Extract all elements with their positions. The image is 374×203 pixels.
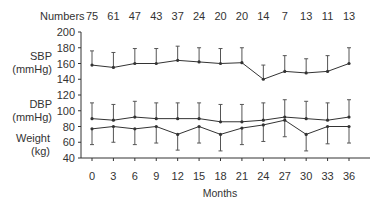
- data-point: [326, 125, 329, 128]
- data-point: [219, 133, 222, 136]
- numbers-value: 14: [257, 10, 269, 22]
- x-tick-label: 24: [257, 170, 269, 182]
- data-point: [305, 117, 308, 120]
- numbers-value: 24: [193, 10, 205, 22]
- data-point: [197, 125, 200, 128]
- y-axis: 406080100120140160180200: [57, 26, 81, 164]
- y-tick-label: 120: [57, 89, 75, 101]
- data-point: [176, 117, 179, 120]
- data-point: [240, 126, 243, 129]
- series-label: (kg): [31, 145, 50, 157]
- data-point: [155, 117, 158, 120]
- x-tick-label: 30: [300, 170, 312, 182]
- data-point: [90, 63, 93, 66]
- data-point: [347, 62, 350, 65]
- x-tick-label: 33: [321, 170, 333, 182]
- numbers-value: 13: [300, 10, 312, 22]
- numbers-value: 43: [150, 10, 162, 22]
- numbers-label: Numbers: [40, 10, 85, 22]
- numbers-value: 47: [129, 10, 141, 22]
- data-point: [219, 120, 222, 123]
- data-point: [112, 66, 115, 69]
- numbers-value: 75: [86, 10, 98, 22]
- x-tick-label: 27: [279, 170, 291, 182]
- x-tick-label: 6: [132, 170, 138, 182]
- y-tick-label: 180: [57, 42, 75, 54]
- numbers-value: 37: [172, 10, 184, 22]
- series-line: [90, 46, 351, 81]
- data-point: [176, 133, 179, 136]
- series-label: DBP: [29, 98, 52, 110]
- x-tick-label: 15: [193, 170, 205, 182]
- x-axis-label: Months: [203, 187, 237, 199]
- data-point: [155, 125, 158, 128]
- data-point: [283, 115, 286, 118]
- data-point: [262, 123, 265, 126]
- numbers-value: 20: [236, 10, 248, 22]
- data-point: [283, 70, 286, 73]
- data-point: [347, 115, 350, 118]
- plot-area: [90, 46, 351, 151]
- series-labels: SBP(mmHg)DBP(mmHg)Weight(kg): [12, 50, 52, 157]
- data-point: [305, 133, 308, 136]
- data-point: [262, 119, 265, 122]
- chart: Numbers 7561474337242020147131113 406080…: [0, 0, 374, 203]
- series-line: [90, 119, 351, 151]
- x-tick-label: 3: [110, 170, 116, 182]
- data-point: [133, 115, 136, 118]
- series-label: (mmHg): [12, 111, 52, 123]
- data-point: [90, 117, 93, 120]
- data-point: [305, 71, 308, 74]
- x-tick-label: 9: [153, 170, 159, 182]
- y-tick-label: 80: [63, 121, 75, 133]
- x-axis: 0369121518212427303336: [81, 158, 370, 182]
- numbers-values: 7561474337242020147131113: [86, 10, 355, 22]
- x-tick-label: 0: [89, 170, 95, 182]
- data-point: [112, 119, 115, 122]
- data-point: [197, 60, 200, 63]
- data-point: [133, 62, 136, 65]
- x-tick-label: 12: [172, 170, 184, 182]
- series-label: Weight: [16, 132, 50, 144]
- series-label: (mmHg): [12, 63, 52, 75]
- numbers-value: 20: [214, 10, 226, 22]
- y-tick-label: 200: [57, 26, 75, 38]
- x-tick-label: 36: [343, 170, 355, 182]
- data-point: [133, 127, 136, 130]
- numbers-row: Numbers 7561474337242020147131113: [40, 10, 355, 22]
- data-point: [326, 70, 329, 73]
- numbers-value: 13: [343, 10, 355, 22]
- numbers-value: 7: [282, 10, 288, 22]
- y-tick-label: 40: [63, 152, 75, 164]
- data-point: [240, 61, 243, 64]
- data-point: [283, 119, 286, 122]
- data-point: [262, 78, 265, 81]
- y-tick-label: 160: [57, 58, 75, 70]
- data-point: [176, 59, 179, 62]
- y-tick-label: 60: [63, 136, 75, 148]
- y-tick-label: 140: [57, 73, 75, 85]
- data-point: [112, 125, 115, 128]
- x-tick-label: 18: [214, 170, 226, 182]
- numbers-value: 61: [107, 10, 119, 22]
- data-point: [347, 125, 350, 128]
- numbers-value: 11: [322, 10, 333, 22]
- x-tick-label: 21: [236, 170, 248, 182]
- series-line: [90, 100, 351, 124]
- series-label: SBP: [30, 50, 52, 62]
- data-point: [219, 62, 222, 65]
- data-point: [240, 120, 243, 123]
- data-point: [155, 62, 158, 65]
- data-point: [197, 117, 200, 120]
- y-tick-label: 100: [57, 105, 75, 117]
- data-point: [326, 119, 329, 122]
- data-point: [90, 127, 93, 130]
